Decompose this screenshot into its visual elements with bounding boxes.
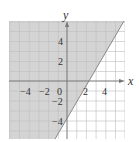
x-tick-label: −4 xyxy=(20,86,31,97)
inequality-graph: y x −4 −2 0 2 4 4 2 −2 −4 xyxy=(0,0,139,142)
y-tick-label: −2 xyxy=(52,96,63,107)
x-tick-label: 2 xyxy=(83,86,88,97)
x-axis-arrow-icon xyxy=(119,79,125,83)
y-tick-label: −4 xyxy=(52,116,63,127)
x-tick-label: −2 xyxy=(39,86,50,97)
y-axis-label: y xyxy=(62,8,69,22)
x-tick-label: 4 xyxy=(102,86,107,97)
y-tick-label: 4 xyxy=(58,36,63,47)
y-tick-label: 2 xyxy=(58,56,63,67)
x-axis-label: x xyxy=(127,74,134,88)
